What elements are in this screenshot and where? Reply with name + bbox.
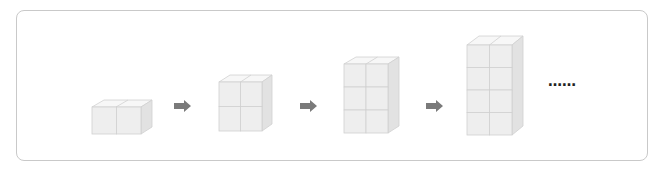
right-arrow-icon	[174, 100, 191, 112]
right-arrow-icon	[300, 100, 317, 112]
figure-3-stack	[344, 57, 399, 133]
continuation-ellipsis: ……	[548, 73, 576, 89]
right-arrow-icon	[426, 100, 443, 112]
figure-2-stack	[219, 75, 272, 131]
figure-1-stack	[92, 100, 152, 134]
figure-4-stack	[467, 36, 523, 135]
